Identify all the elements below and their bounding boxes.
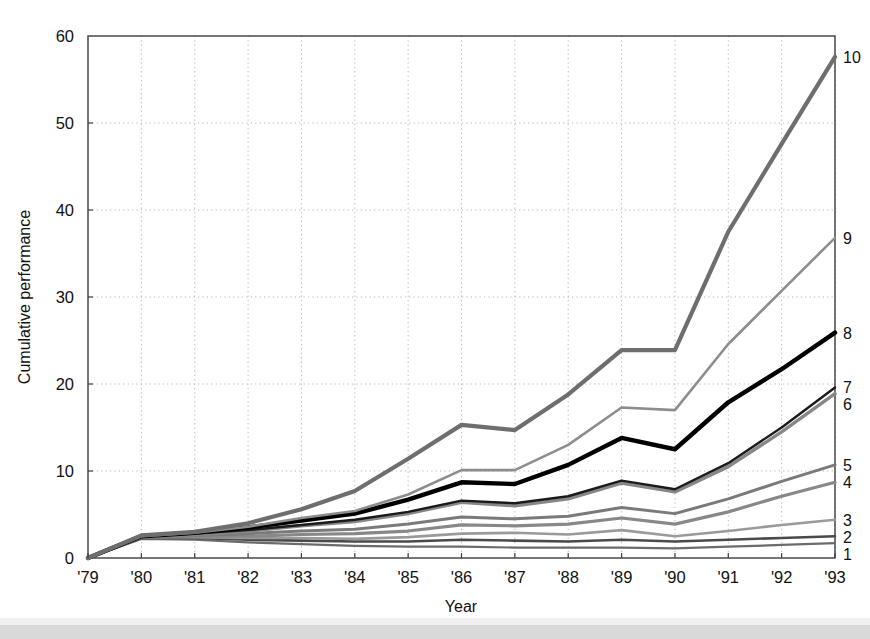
x-tick-label: '80 [131,568,153,586]
x-tick-label: '85 [397,568,419,586]
y-tick-label: 40 [56,201,74,219]
line-chart: 0102030405060 '79'80'81'82'83'84'85'86'8… [0,0,870,639]
footer-gray-band [0,625,870,639]
series-label-8: 8 [843,325,852,342]
x-tick-label: '92 [771,568,793,586]
series-label-9: 9 [843,230,852,247]
x-tick-label: '87 [504,568,526,586]
x-axis-tick-labels: '79'80'81'82'83'84'85'86'87'88'89'90'91'… [77,568,846,586]
x-tick-label: '84 [344,568,366,586]
x-tick-label: '86 [451,568,473,586]
y-tick-label: 10 [56,462,74,480]
y-tick-label: 50 [56,114,74,132]
series-label-4: 4 [843,474,852,491]
x-tick-label: '83 [291,568,313,586]
y-tick-label: 0 [65,549,74,567]
series-end-labels: 10987654321 [843,49,861,563]
plot-background [88,36,835,558]
x-tick-label: '88 [557,568,579,586]
x-tick-label: '81 [184,568,206,586]
series-label-2: 2 [843,529,852,546]
series-label-6: 6 [843,396,852,413]
y-tick-label: 60 [56,27,74,45]
chart-figure: 0102030405060 '79'80'81'82'83'84'85'86'8… [0,0,870,639]
footer-fade-band [0,618,870,625]
x-tick-label: '89 [611,568,633,586]
x-tick-label: '93 [824,568,846,586]
x-axis-title: Year [445,598,478,615]
x-tick-label: '79 [77,568,99,586]
series-label-5: 5 [843,457,852,474]
y-tick-label: 30 [56,288,74,306]
y-axis-title: Cumulative performance [16,210,33,384]
series-label-1: 1 [843,546,852,563]
series-label-3: 3 [843,512,852,529]
y-tick-label: 20 [56,375,74,393]
x-tick-label: '82 [237,568,259,586]
x-tick-label: '91 [718,568,740,586]
series-label-7: 7 [843,379,852,396]
series-label-10: 10 [843,49,861,66]
x-tick-label: '90 [664,568,686,586]
